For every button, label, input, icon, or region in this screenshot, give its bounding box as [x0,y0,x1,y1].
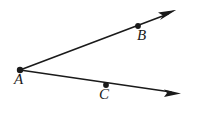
ray-AB-arrowhead [158,10,176,20]
ray-AB-arrowhead-barb [161,10,176,16]
geometry-figure-canvas: A B C [0,0,197,116]
ray-AC-line [20,70,171,92]
point-C-label: C [99,87,109,102]
point-B-label: B [137,28,146,43]
ray-AB-group [20,10,176,70]
ray-AC-arrowhead [164,90,181,98]
point-A-label: A [14,72,23,87]
